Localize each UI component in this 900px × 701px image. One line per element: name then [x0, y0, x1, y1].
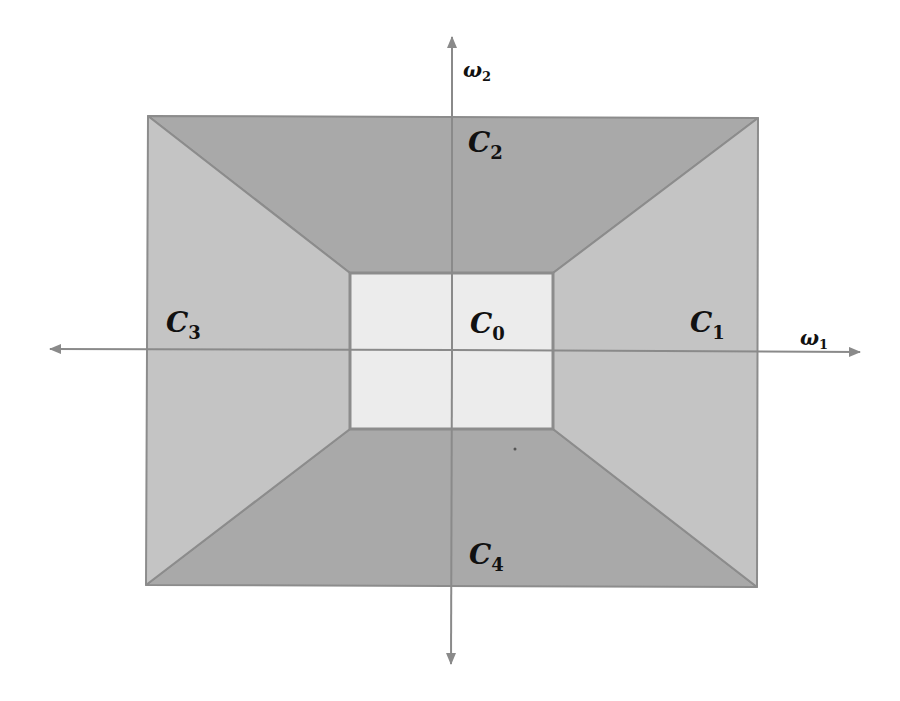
axis-omega2-negative — [451, 350, 452, 664]
speck-artifact — [514, 448, 517, 451]
axis-label-omega1: ω1 — [800, 326, 828, 352]
axis-omega1-negative — [50, 349, 452, 350]
axis-label-omega2: ω2 — [463, 58, 491, 84]
frequency-partition-diagram: ω2 ω1 C2 C3 C0 C1 C4 — [0, 0, 900, 701]
